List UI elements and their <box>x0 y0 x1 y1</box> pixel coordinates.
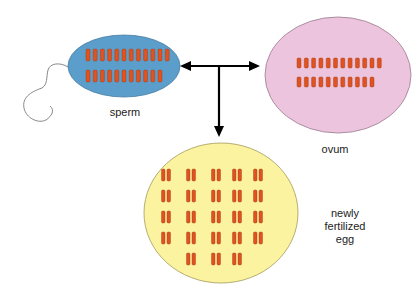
sperm-tail <box>24 64 68 121</box>
chromosome <box>212 253 216 265</box>
chromosome <box>187 169 191 181</box>
chromosome <box>217 169 221 181</box>
chromosome <box>259 190 263 202</box>
chromosome <box>217 232 221 244</box>
chromosome <box>100 49 104 61</box>
chromosome <box>144 70 148 82</box>
chromosome <box>238 253 242 265</box>
chromosome <box>312 58 316 68</box>
chromosome <box>304 77 308 87</box>
ovum-label: ovum <box>310 143 360 156</box>
chromosome <box>115 70 119 82</box>
chromosome <box>341 58 345 68</box>
chromosome <box>304 58 308 68</box>
chromosome <box>238 211 242 223</box>
chromosome <box>158 70 162 82</box>
chromosome <box>187 232 191 244</box>
chromosome <box>363 77 367 87</box>
chromosome <box>259 211 263 223</box>
chromosome <box>144 49 148 61</box>
chromosome <box>377 58 381 68</box>
chromosome <box>348 77 352 87</box>
chromosome <box>115 49 119 61</box>
chromosome <box>136 49 140 61</box>
chromosome <box>167 169 171 181</box>
chromosome <box>192 253 196 265</box>
chromosome <box>187 211 191 223</box>
chromosome <box>93 70 97 82</box>
chromosome <box>162 232 166 244</box>
chromosome <box>212 211 216 223</box>
chromosome <box>192 232 196 244</box>
chromosome <box>212 232 216 244</box>
chromosome <box>167 232 171 244</box>
chromosome <box>86 70 90 82</box>
chromosome <box>334 58 338 68</box>
chromosome <box>254 190 258 202</box>
chromosome <box>233 232 237 244</box>
chromosome <box>217 190 221 202</box>
chromosome <box>165 49 169 61</box>
chromosome <box>312 77 316 87</box>
chromosome <box>122 49 126 61</box>
chromosome <box>238 190 242 202</box>
chromosome <box>108 70 112 82</box>
chromosome <box>162 211 166 223</box>
chromosome <box>151 49 155 61</box>
chromosome <box>167 211 171 223</box>
chromosome <box>319 58 323 68</box>
chromosome <box>355 58 359 68</box>
chromosome <box>151 70 155 82</box>
chromosome <box>297 77 301 87</box>
chromosome <box>254 232 258 244</box>
chromosome <box>259 232 263 244</box>
egg-label: newly fertilized egg <box>310 207 380 246</box>
chromosome <box>254 169 258 181</box>
chromosome <box>129 49 133 61</box>
chromosome <box>217 211 221 223</box>
chromosome <box>233 211 237 223</box>
chromosome <box>187 253 191 265</box>
chromosome <box>326 77 330 87</box>
chromosome <box>212 190 216 202</box>
chromosome <box>212 169 216 181</box>
chromosome <box>363 58 367 68</box>
chromosome <box>136 70 140 82</box>
chromosome <box>122 70 126 82</box>
chromosome <box>370 77 374 87</box>
chromosome <box>129 70 133 82</box>
chromosome <box>162 169 166 181</box>
egg-label-line1: newly <box>310 207 380 220</box>
chromosome <box>167 190 171 202</box>
chromosome <box>217 253 221 265</box>
chromosome <box>348 58 352 68</box>
egg-label-line2: fertilized <box>310 220 380 233</box>
chromosome <box>192 190 196 202</box>
sperm-label: sperm <box>100 106 150 119</box>
arrowhead-down-icon <box>214 126 224 137</box>
chromosome <box>259 169 263 181</box>
chromosome <box>162 190 166 202</box>
ovum <box>265 17 411 133</box>
chromosome <box>326 58 330 68</box>
chromosome <box>233 253 237 265</box>
chromosome <box>187 190 191 202</box>
chromosome <box>233 169 237 181</box>
chromosome <box>355 77 359 87</box>
chromosome <box>158 49 162 61</box>
chromosome <box>86 49 90 61</box>
chromosome <box>341 77 345 87</box>
chromosome <box>192 169 196 181</box>
chromosome <box>108 49 112 61</box>
fusion-arrows <box>180 61 260 137</box>
chromosome <box>334 77 338 87</box>
chromosome <box>233 190 237 202</box>
egg-label-line3: egg <box>310 233 380 246</box>
chromosome <box>297 58 301 68</box>
chromosome <box>319 77 323 87</box>
chromosome <box>238 169 242 181</box>
chromosome <box>254 211 258 223</box>
chromosome <box>192 211 196 223</box>
arrowhead-right-icon <box>249 61 260 71</box>
chromosome <box>100 70 104 82</box>
